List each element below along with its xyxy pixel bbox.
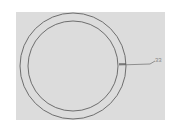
callout-label: 33: [155, 57, 162, 63]
concentric-circles-diagram: [0, 0, 178, 130]
outer-circle: [20, 13, 126, 119]
inner-circle: [28, 21, 118, 111]
